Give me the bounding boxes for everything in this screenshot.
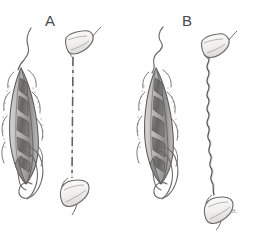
panel-a-apical-flagellum [18,28,31,70]
panel-b-lower-band [205,195,234,230]
panel-a-group [2,27,101,215]
illustration-canvas [0,0,253,231]
panel-a-straight-dashed-strand [72,57,73,178]
panel-b-upper-band [202,31,237,59]
panel-b-wavy-strand [207,56,215,195]
panel-label-b: B [182,13,192,28]
panel-b-group [137,27,237,230]
panel-a-upper-band [66,27,101,58]
panel-label-a: A [45,13,55,28]
figure-container: A B B. [0,0,253,231]
panel-b-apical-flagellum [152,27,163,73]
artist-signature-mark: B. [231,207,238,215]
panel-a-lower-band [61,178,90,215]
